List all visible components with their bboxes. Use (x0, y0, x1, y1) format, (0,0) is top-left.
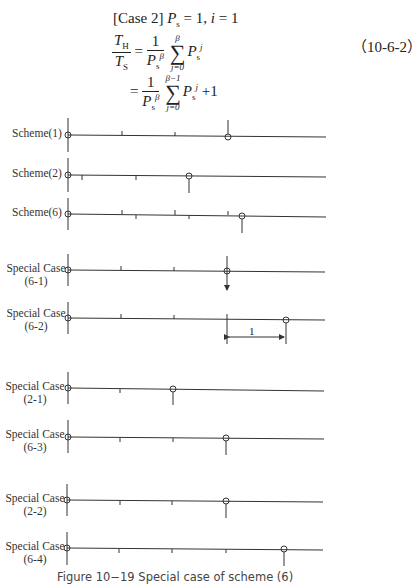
row-scheme-2 (65, 158, 326, 193)
dimension-label: 1 (249, 325, 255, 337)
row-scheme-6 (65, 198, 326, 233)
row-special-6-1 (65, 254, 325, 290)
row-special-6-3 (65, 420, 324, 455)
row-special-2-1 (65, 372, 324, 405)
row-special-6-4 (64, 532, 323, 566)
row-scheme-1 (65, 118, 326, 152)
figure-caption: Figure 10−19 Special case of scheme (6) (57, 570, 293, 584)
row-special-2-2 (64, 484, 323, 518)
row-special-6-2 (65, 302, 325, 344)
